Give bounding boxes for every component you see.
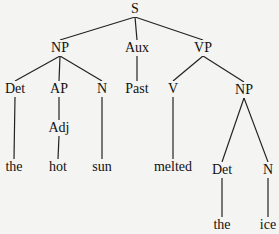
node-det-object: Det [211,162,233,178]
edge-S-NP1 [60,17,135,40]
node-past: Past [124,81,149,97]
edge-VP-V [173,56,203,81]
node-aux: Aux [124,40,150,56]
edge-Adj-hot [58,136,59,159]
node-ap: AP [49,81,69,97]
leaf-hot: hot [48,159,68,175]
edge-NP1-N1 [60,56,102,81]
edge-S-Aux [135,17,137,40]
edge-Det1-the1 [14,97,15,159]
node-np-object: NP [234,82,254,98]
edge-VP-NP2 [203,56,244,82]
leaf-sun: sun [91,159,112,175]
leaf-the-subject: the [4,159,23,175]
node-np-subject: NP [50,40,70,56]
leaf-ice: ice [259,217,277,233]
node-det-subject: Det [4,81,26,97]
node-vp: VP [193,40,213,56]
node-n-object: N [262,162,274,178]
edge-NP2-Det2 [222,98,244,162]
leaf-melted: melted [153,159,193,175]
leaf-the-object: the [212,217,231,233]
edge-NP1-AP [59,56,60,81]
node-s: S [130,1,140,17]
node-adj: Adj [48,120,71,136]
tree-edges [0,0,279,234]
edge-NP1-Det1 [15,56,60,81]
node-n-subject: N [96,81,108,97]
node-v: V [167,81,179,97]
syntax-tree-diagram: S NP Aux VP Det AP N Past V NP Adj the h… [0,0,279,234]
edge-NP2-N2 [244,98,268,162]
edge-S-VP [135,17,203,40]
